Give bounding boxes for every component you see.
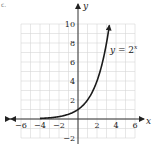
x-tick-label: −6 xyxy=(15,121,27,130)
y-tick-label: 10 xyxy=(65,20,75,29)
exponential-graph: c. −6−4−2246−2246810 x y y = 2x xyxy=(0,0,153,145)
axes xyxy=(10,4,144,144)
x-axis-label: x xyxy=(146,116,151,126)
y-tick-label: 6 xyxy=(70,58,75,67)
x-tick-label: −4 xyxy=(34,121,46,130)
corner-mark: c. xyxy=(1,1,6,8)
x-tick-label: 6 xyxy=(132,121,137,130)
y-tick-label: 4 xyxy=(70,77,75,86)
y-tick-label: 2 xyxy=(70,96,75,105)
function-label-base: = 2 xyxy=(115,45,134,55)
y-tick-label: 8 xyxy=(70,39,75,48)
y-tick-label: −2 xyxy=(63,134,75,143)
x-tick-label: 2 xyxy=(94,121,99,130)
x-tick-label: 4 xyxy=(113,121,118,130)
x-tick-label: −2 xyxy=(53,121,65,130)
y-axis-label: y xyxy=(82,1,89,11)
function-label-exponent: x xyxy=(134,43,138,50)
tick-labels: −6−4−2246−2246810 xyxy=(15,20,137,143)
function-label: y = 2x xyxy=(109,43,138,55)
